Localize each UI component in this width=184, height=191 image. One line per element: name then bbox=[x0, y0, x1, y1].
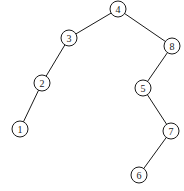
node-label: 5 bbox=[141, 83, 146, 94]
tree-node-2: 2 bbox=[34, 75, 50, 91]
node-label: 4 bbox=[116, 4, 121, 15]
tree-node-7: 7 bbox=[163, 123, 179, 139]
tree-node-8: 8 bbox=[164, 38, 180, 54]
tree-node-5: 5 bbox=[135, 80, 151, 96]
tree-node-4: 4 bbox=[110, 1, 126, 17]
tree-node-3: 3 bbox=[61, 30, 77, 46]
tree-node-6: 6 bbox=[131, 167, 147, 183]
node-label: 2 bbox=[40, 78, 45, 89]
edge-4-8 bbox=[118, 9, 172, 46]
node-label: 6 bbox=[137, 170, 142, 181]
node-label: 8 bbox=[170, 41, 175, 52]
binary-tree-diagram: 43825176 bbox=[0, 0, 184, 191]
tree-node-1: 1 bbox=[12, 121, 28, 137]
node-label: 7 bbox=[169, 126, 174, 137]
node-label: 3 bbox=[67, 33, 72, 44]
node-label: 1 bbox=[18, 124, 23, 135]
edge-4-3 bbox=[69, 9, 118, 38]
